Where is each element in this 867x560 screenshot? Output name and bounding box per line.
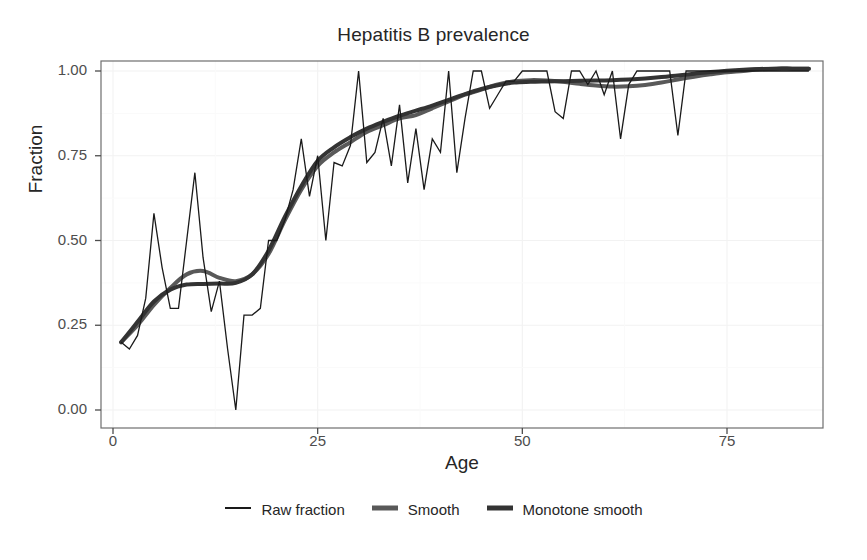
legend-line-key-icon — [371, 500, 399, 518]
legend-item-label: Monotone smooth — [523, 501, 643, 518]
legend-item: Monotone smooth — [486, 500, 643, 518]
legend-item: Smooth — [371, 500, 460, 518]
legend-line-key-icon — [486, 500, 514, 518]
chart-legend: Raw fractionSmoothMonotone smooth — [0, 500, 867, 518]
plot-area — [0, 0, 867, 560]
chart-figure: Hepatitis B prevalence Fraction Age 0.00… — [0, 0, 867, 560]
legend-line-key-icon — [224, 500, 252, 518]
legend-item-label: Smooth — [408, 501, 460, 518]
plot-panel-background — [101, 61, 823, 428]
legend-item: Raw fraction — [224, 500, 344, 518]
legend-item-label: Raw fraction — [261, 501, 344, 518]
